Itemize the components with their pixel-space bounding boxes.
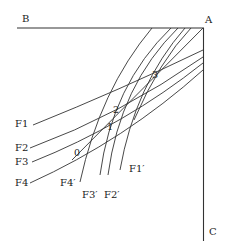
point-0: 0 [74, 148, 80, 158]
label-f3-prime: F3′ [82, 190, 98, 200]
label-f1: F1 [15, 119, 28, 129]
label-f2: F2 [15, 143, 28, 153]
label-b: B [22, 14, 29, 24]
label-f4: F4 [15, 178, 28, 188]
label-c: C [209, 227, 217, 237]
label-f4-prime: F4′ [60, 178, 76, 188]
diagram-lines [0, 0, 228, 248]
point-1: 1 [107, 122, 113, 132]
label-f3: F3 [15, 157, 28, 167]
label-f2-prime: F2′ [104, 190, 120, 200]
curve-f4 [30, 70, 203, 183]
label-a: A [205, 15, 212, 25]
diagram-canvas: B A C F1 F2 F3 F4 F4′ F3′ F2′ F1′ 0 1 2 … [0, 0, 228, 248]
point-2: 2 [113, 105, 119, 115]
label-f1-prime: F1′ [129, 164, 145, 174]
point-3: 3 [152, 70, 158, 80]
